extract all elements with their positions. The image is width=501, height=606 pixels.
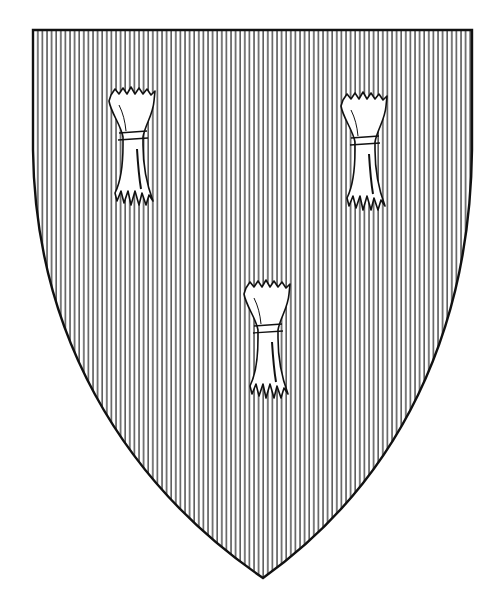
shield-svg: [0, 0, 501, 606]
heraldic-shield-illustration: Shield: gules, three garbs: [0, 0, 501, 606]
